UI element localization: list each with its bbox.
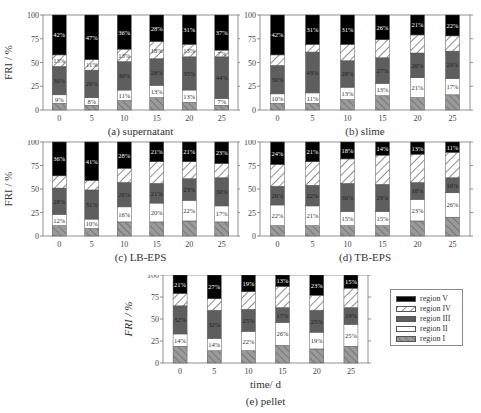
segment-value-label: 15% — [342, 215, 355, 222]
segment-value-label: 17% — [277, 312, 290, 319]
x-tick-label: 10 — [120, 240, 128, 249]
y-tick-label: 25 — [31, 82, 39, 91]
segment-value-label: 14% — [208, 341, 221, 348]
bar-segment-region-iv — [446, 36, 460, 51]
bar-segment-region-i — [52, 226, 66, 236]
x-tick-label: 20 — [185, 240, 193, 249]
bar-segment-region-i — [446, 95, 460, 110]
segment-value-label: 21% — [307, 212, 320, 219]
segment-value-label: 13% — [183, 47, 196, 54]
bar-segment-region-iv — [85, 181, 99, 190]
segment-value-label: 30% — [118, 72, 131, 79]
segment-value-label: 18% — [342, 147, 355, 154]
bar-segment-region-i — [150, 222, 164, 236]
segment-value-label: 10% — [86, 220, 99, 227]
bar-segment-region-i — [271, 103, 285, 110]
x-tick-label: 20 — [313, 367, 321, 376]
segment-value-label: 13% — [118, 52, 131, 59]
x-tick-label: 0 — [178, 367, 182, 376]
bar-segment-region-iv — [306, 162, 320, 185]
segment-value-label: 13% — [151, 88, 164, 95]
segment-value-label: 29% — [447, 61, 460, 68]
y-tick-label: 100 — [244, 11, 256, 20]
x-tick-label: 15 — [153, 114, 161, 123]
segment-value-label: 16% — [118, 211, 131, 218]
segment-value-label: 13% — [342, 90, 355, 97]
bar-segment-region-iv — [376, 155, 390, 184]
bar-segment-region-i — [376, 96, 390, 110]
segment-value-label: 29% — [377, 194, 390, 201]
y-tick-label: 50 — [151, 315, 159, 324]
chart-panel-3: 0255075100FRI / %12%28%36%010%31%41%516%… — [0, 140, 240, 279]
bar-segment-region-i — [341, 100, 355, 110]
bar-segment-region-iv — [215, 164, 229, 178]
segment-value-label: 26% — [277, 330, 290, 337]
x-tick-label: 5 — [212, 367, 216, 376]
segment-value-label: 13% — [53, 57, 66, 64]
y-tick-label: 25 — [248, 82, 256, 91]
y-tick-label: 50 — [248, 59, 256, 68]
x-tick-label: 15 — [153, 240, 161, 249]
segment-value-label: 25% — [345, 332, 358, 339]
legend-label: region IV — [420, 304, 451, 313]
y-tick-label: 100 — [147, 275, 159, 280]
y-tick-label: 25 — [31, 209, 39, 218]
segment-value-label: 26% — [118, 191, 131, 198]
y-tick-label: 0 — [35, 106, 39, 115]
swatch-region-iii — [396, 316, 416, 322]
y-axis-label: FRI / % — [2, 172, 14, 207]
legend-item-region-v: region V — [396, 294, 448, 303]
bar-segment-region-iv — [446, 152, 460, 177]
segment-value-label: 13% — [377, 86, 390, 93]
x-tick-label: 20 — [414, 114, 422, 123]
x-tick-label: 0 — [57, 114, 61, 123]
plot-frame — [43, 142, 238, 236]
bar-segment-region-iv — [241, 292, 255, 310]
segment-value-label: 15% — [377, 215, 390, 222]
y-tick-label: 50 — [31, 59, 39, 68]
x-tick-label: 5 — [90, 240, 94, 249]
swatch-region-i — [396, 336, 416, 342]
bar-segment-region-iv — [341, 159, 355, 183]
segment-value-label: 31% — [86, 201, 99, 208]
x-tick-label: 15 — [379, 114, 387, 123]
segment-value-label: 15% — [345, 278, 358, 285]
bar-segment-region-iv — [182, 162, 196, 179]
y-axis-label: FRI / % — [122, 302, 134, 338]
bar-segment-region-iv — [344, 288, 358, 307]
bar-segment-region-i — [344, 346, 358, 363]
segment-value-label: 28% — [53, 198, 66, 205]
segment-value-label: 36% — [53, 155, 66, 162]
bar-segment-region-i — [207, 351, 221, 363]
segment-value-label: 30% — [53, 77, 66, 84]
bar-segment-region-i — [241, 351, 255, 363]
segment-value-label: 20% — [151, 209, 164, 216]
segment-value-label: 44% — [216, 74, 229, 81]
segment-value-label: 37% — [216, 29, 229, 36]
bar-segment-region-iv — [310, 295, 324, 310]
segment-value-label: 23% — [311, 282, 324, 289]
segment-value-label: 22% — [242, 338, 255, 345]
bar-segment-region-i — [182, 102, 196, 110]
chart-panel-1: 0255075100FRI / %9%30%13%42%08%29%11%47%… — [0, 0, 240, 144]
segment-value-label: 29% — [86, 80, 99, 87]
plot-frame — [260, 15, 470, 110]
panel-title: (d) TB-EPS — [339, 251, 391, 264]
bar-segment-region-iv — [117, 168, 131, 182]
segment-value-label: 18% — [151, 47, 164, 54]
segment-value-label: 22% — [272, 212, 285, 219]
bar-segment-region-iv — [341, 44, 355, 60]
segment-value-label: 17% — [216, 210, 229, 217]
segment-value-label: 27% — [377, 67, 390, 74]
bar-segment-region-i — [411, 98, 425, 110]
panel-title: (c) LB-EPS — [115, 251, 167, 264]
segment-value-label: 30% — [342, 194, 355, 201]
segment-value-label: 23% — [216, 149, 229, 156]
bar-segment-region-iv — [150, 162, 164, 184]
segment-value-label: 11% — [447, 144, 459, 151]
bar-segment-region-iv — [207, 299, 221, 310]
y-tick-label: 50 — [248, 185, 256, 194]
bar-segment-region-i — [150, 98, 164, 110]
x-tick-label: 25 — [347, 367, 355, 376]
x-axis-label: time/ d — [250, 378, 281, 390]
